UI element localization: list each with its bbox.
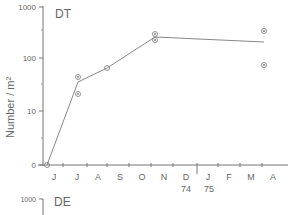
data-points [45, 29, 267, 168]
xtick-oct: O [138, 172, 145, 182]
ytick-10: 10 [27, 107, 36, 116]
xtick-jan: J [206, 172, 211, 182]
y-axis-label: Number / m² [4, 77, 16, 138]
next-panel-ytick-1000: 1000 [20, 196, 36, 203]
xtick-jun: J [52, 172, 57, 182]
panel-label: DT [55, 7, 72, 21]
chart: 1000 100 10 0 Number / m² DT J J A S O N… [0, 0, 288, 215]
xtick-mar: M [247, 172, 255, 182]
mean-line [47, 37, 264, 165]
xtick-apr: A [270, 172, 276, 182]
next-panel-label: DE [54, 195, 71, 209]
year-75: 75 [204, 184, 214, 194]
xtick-aug: A [95, 172, 101, 182]
ytick-1000: 1000 [18, 3, 36, 12]
ytick-0: 0 [32, 161, 37, 170]
xtick-sep: S [117, 172, 123, 182]
xtick-jul: J [75, 172, 80, 182]
year-74: 74 [181, 184, 191, 194]
xtick-feb: F [226, 172, 232, 182]
ytick-100: 100 [23, 54, 37, 63]
xtick-nov: N [161, 172, 168, 182]
xtick-dec: D [183, 172, 190, 182]
